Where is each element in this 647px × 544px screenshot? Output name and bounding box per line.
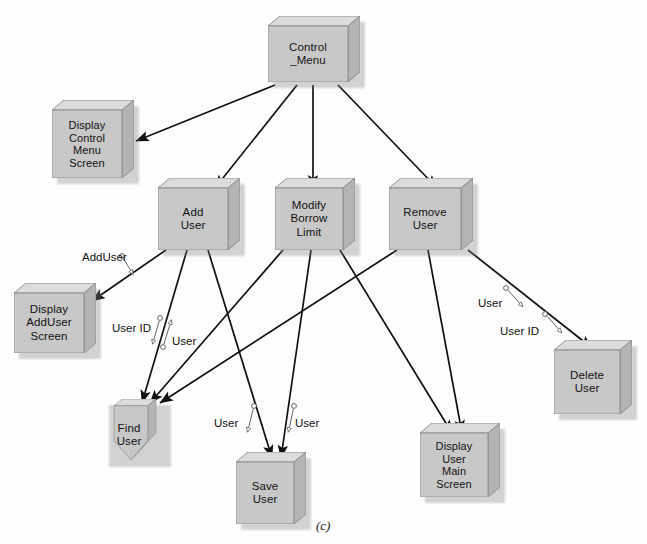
- flow-label-user_delete: User: [478, 297, 502, 309]
- flow-label-user_save_left: User: [214, 417, 238, 429]
- figure-caption: (c): [316, 518, 330, 534]
- diagram-canvas: Control _MenuDisplay Control Menu Screen…: [0, 0, 647, 544]
- flow-label-user_find: User: [172, 335, 196, 347]
- flow-label-adduser_out: AddUser: [82, 251, 127, 263]
- flow-label-userid_find: User ID: [112, 322, 151, 334]
- flow-label-userid_delete: User ID: [500, 325, 539, 337]
- flow-label-user_save_right: User: [295, 417, 319, 429]
- flow-label-layer: AddUserUser IDUserUserUserUserUser ID: [0, 0, 647, 544]
